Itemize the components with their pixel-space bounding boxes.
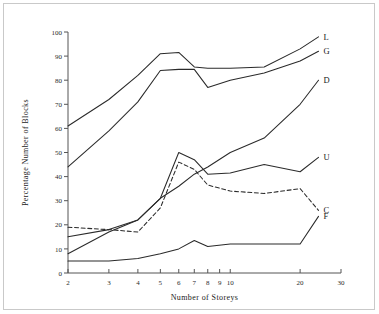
series-label-F: F — [324, 211, 329, 221]
y-tick-label: 20 — [55, 221, 63, 229]
x-tick-label: 7 — [193, 279, 197, 287]
y-tick-label: 30 — [55, 197, 63, 205]
y-tick-label: 70 — [55, 101, 63, 109]
series-label-D: D — [324, 75, 330, 85]
y-tick-label: 90 — [55, 53, 63, 61]
x-tick-label: 4 — [136, 279, 140, 287]
series-line-U — [68, 153, 319, 237]
y-tick-label: 40 — [55, 173, 63, 181]
x-axis-title: Number of Storeys — [171, 293, 239, 302]
series-line-C — [68, 162, 319, 232]
x-tick-label: 3 — [107, 279, 111, 287]
line-chart-plot: 010203040506070809010023456789102030Numb… — [0, 0, 379, 314]
y-tick-label: 100 — [52, 29, 63, 37]
series-line-F — [68, 216, 319, 261]
x-tick-label: 5 — [159, 279, 163, 287]
y-axis-title: Percentage Number of Blocks — [21, 99, 30, 206]
x-tick-label: 2 — [66, 279, 70, 287]
y-tick-label: 10 — [55, 246, 63, 254]
series-line-G — [68, 51, 319, 167]
x-tick-label: 6 — [177, 279, 181, 287]
x-tick-label: 8 — [206, 279, 210, 287]
y-tick-label: 0 — [59, 270, 63, 278]
series-label-L: L — [324, 32, 329, 42]
series-label-U: U — [324, 152, 330, 162]
y-tick-label: 80 — [55, 77, 63, 85]
y-tick-label: 50 — [55, 149, 63, 157]
y-tick-label: 60 — [55, 125, 63, 133]
series-line-L — [68, 37, 319, 126]
chart-figure: 010203040506070809010023456789102030Numb… — [0, 0, 379, 314]
x-tick-label: 30 — [338, 279, 346, 287]
x-tick-label: 20 — [297, 279, 305, 287]
x-tick-label: 10 — [227, 279, 235, 287]
series-label-G: G — [324, 46, 330, 56]
series-line-D — [68, 80, 319, 254]
x-tick-label: 9 — [218, 279, 222, 287]
